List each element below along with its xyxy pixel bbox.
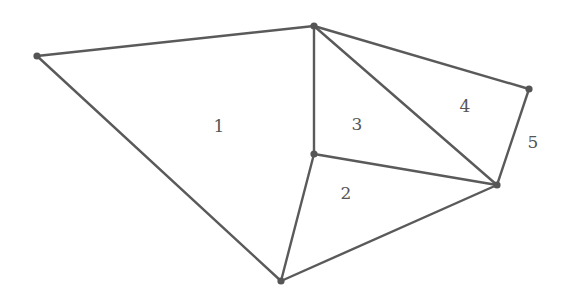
region-label-5: 5 [528, 132, 539, 152]
region-label-4: 4 [460, 96, 471, 116]
edge-D-E [314, 154, 497, 185]
region-label-1: 1 [214, 116, 225, 136]
edge-E-F [281, 185, 497, 281]
region-label-3: 3 [352, 114, 363, 134]
edge-A-F [37, 56, 281, 281]
edge-A-B [37, 26, 314, 56]
vertices-group [33, 22, 532, 284]
region-label-2: 2 [341, 183, 352, 203]
vertex-C [525, 85, 532, 92]
edge-B-C [314, 26, 529, 89]
edge-D-F [281, 154, 314, 281]
vertex-A [33, 52, 40, 59]
vertex-E [493, 181, 500, 188]
edges-group [37, 26, 529, 281]
planar-graph-diagram: 12345 [0, 0, 567, 294]
region-labels-group: 12345 [214, 96, 539, 203]
vertex-F [277, 277, 284, 284]
vertex-B [310, 22, 317, 29]
vertex-D [310, 150, 317, 157]
edge-C-E [497, 89, 529, 185]
